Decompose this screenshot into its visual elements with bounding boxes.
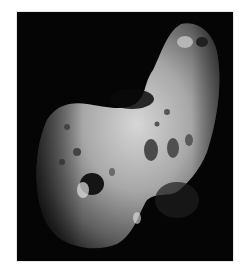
asteroid-photo <box>16 11 234 262</box>
asteroid-illustration <box>17 12 234 262</box>
